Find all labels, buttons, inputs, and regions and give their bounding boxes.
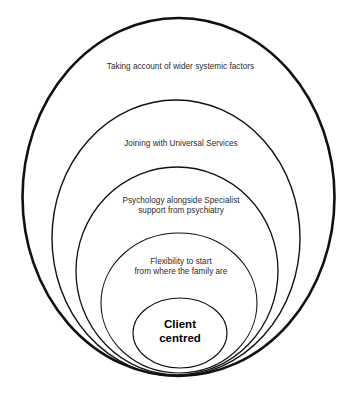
nested-circles-diagram: Taking account of wider systemic factors… bbox=[0, 0, 361, 393]
ring-outline-3 bbox=[76, 167, 278, 375]
ring-outline-5 bbox=[133, 298, 227, 368]
ring-outline-4 bbox=[101, 233, 257, 373]
ring-outline-1 bbox=[23, 18, 335, 376]
ring-outline-2 bbox=[52, 100, 300, 376]
rings-svg bbox=[0, 0, 361, 393]
